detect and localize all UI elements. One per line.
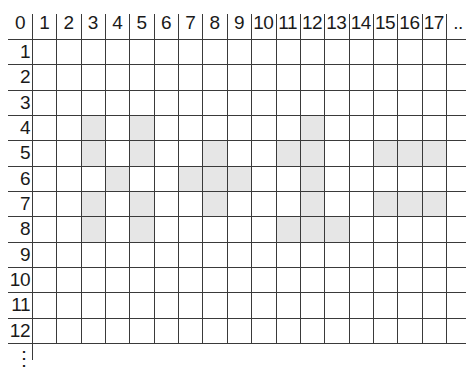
- grid-line-vertical: [446, 14, 447, 343]
- shaded-cell: [301, 116, 324, 140]
- column-header: 8: [202, 11, 226, 35]
- shaded-cell: [228, 167, 251, 191]
- column-header: 1: [32, 11, 56, 35]
- row-label: 3: [8, 90, 30, 115]
- shaded-cell: [130, 116, 153, 140]
- shaded-cell: [374, 141, 397, 165]
- shaded-cell: [277, 141, 300, 165]
- column-header: 0: [8, 11, 32, 35]
- grid-line-horizontal: [8, 343, 466, 344]
- column-header: 10: [251, 11, 275, 35]
- column-header: 5: [129, 11, 153, 35]
- shaded-cell: [82, 192, 105, 216]
- grid-line-vertical: [178, 14, 179, 343]
- grid-line-vertical: [300, 14, 301, 343]
- column-header: 17: [422, 11, 446, 35]
- row-label: 5: [8, 140, 30, 165]
- row-label: 4: [8, 115, 30, 140]
- grid-line-vertical: [105, 14, 106, 343]
- grid-line-vertical: [81, 14, 82, 343]
- column-header: ..: [446, 11, 466, 35]
- grid-line-vertical: [324, 14, 325, 343]
- shaded-cell: [203, 167, 226, 191]
- shaded-cell: [325, 217, 348, 241]
- shaded-cell: [82, 116, 105, 140]
- shaded-cell: [301, 192, 324, 216]
- shaded-cell: [106, 167, 129, 191]
- column-header: 11: [276, 11, 300, 35]
- grid-line-vertical: [129, 14, 130, 343]
- shaded-cell: [130, 192, 153, 216]
- column-header: 2: [56, 11, 80, 35]
- row-label: 9: [8, 242, 30, 267]
- row-label: 2: [8, 64, 30, 89]
- column-header: 3: [81, 11, 105, 35]
- pixel-grid: 01234567891011121314151617..123456789101…: [0, 0, 466, 373]
- row-label: 10: [8, 267, 30, 292]
- shaded-cell: [130, 217, 153, 241]
- row-label: 1: [8, 39, 30, 64]
- shaded-cell: [179, 167, 202, 191]
- shaded-cell: [423, 192, 446, 216]
- grid-line-vertical: [202, 14, 203, 343]
- column-header: 15: [373, 11, 397, 35]
- shaded-cell: [130, 141, 153, 165]
- shaded-cell: [301, 217, 324, 241]
- shaded-cell: [82, 217, 105, 241]
- grid-line-vertical: [422, 14, 423, 343]
- grid-line-vertical: [397, 14, 398, 343]
- row-label: 8: [8, 216, 30, 241]
- shaded-cell: [277, 217, 300, 241]
- row-label: 7: [8, 191, 30, 216]
- grid-line-vertical: [32, 14, 33, 360]
- column-header: 7: [178, 11, 202, 35]
- column-header: 12: [300, 11, 324, 35]
- grid-line-vertical: [373, 14, 374, 343]
- shaded-cell: [203, 192, 226, 216]
- column-header: 14: [349, 11, 373, 35]
- grid-line-vertical: [251, 14, 252, 343]
- row-label: 12: [8, 318, 30, 343]
- row-label: 11: [8, 292, 30, 317]
- shaded-cell: [423, 141, 446, 165]
- shaded-cell: [398, 192, 421, 216]
- shaded-cell: [301, 141, 324, 165]
- grid-line-vertical: [56, 14, 57, 343]
- row-continuation: ⋮: [14, 346, 24, 370]
- grid-line-vertical: [349, 14, 350, 343]
- column-header: 16: [397, 11, 421, 35]
- column-header: 13: [324, 11, 348, 35]
- column-header: 6: [154, 11, 178, 35]
- grid-line-vertical: [227, 14, 228, 343]
- shaded-cell: [203, 141, 226, 165]
- column-header: 4: [105, 11, 129, 35]
- column-header: 9: [227, 11, 251, 35]
- row-label: 6: [8, 166, 30, 191]
- shaded-cell: [398, 141, 421, 165]
- grid-line-vertical: [276, 14, 277, 343]
- grid-line-vertical: [154, 14, 155, 343]
- shaded-cell: [374, 192, 397, 216]
- shaded-cell: [301, 167, 324, 191]
- shaded-cell: [82, 141, 105, 165]
